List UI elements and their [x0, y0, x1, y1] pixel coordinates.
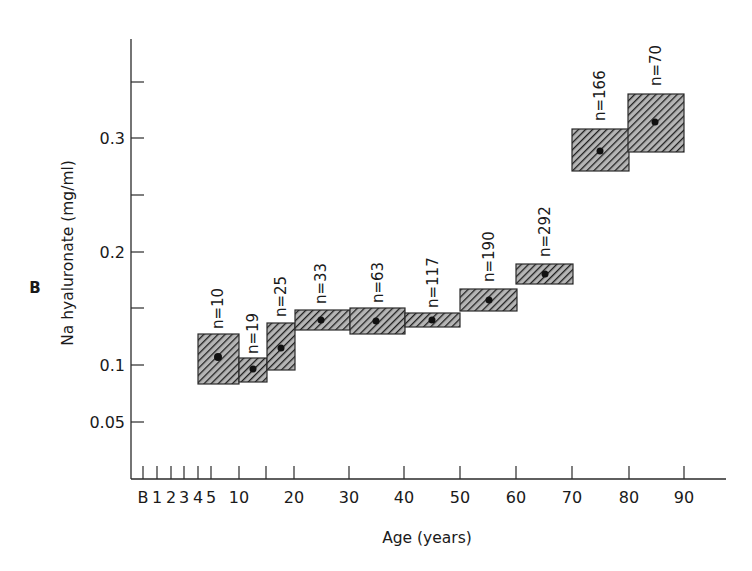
n-label: n=70: [647, 45, 665, 86]
n-label: n=25: [272, 276, 290, 317]
x-tick-label: 80: [619, 488, 639, 507]
mean-dot: [278, 345, 285, 352]
x-ticks: [143, 466, 684, 479]
x-tick-label: 40: [394, 488, 414, 507]
mean-dot: [214, 353, 222, 361]
x-tick-label: 1: [152, 488, 162, 507]
n-label: n=166: [591, 70, 609, 121]
y-tick-labels: 0.3 0.2 0.1 0.05: [89, 129, 125, 432]
x-tick-label: 90: [674, 488, 694, 507]
x-tick-label: 70: [562, 488, 582, 507]
x-tick-label: 10: [229, 488, 249, 507]
n-label: n=292: [536, 206, 554, 257]
y-axis-label: Na hyaluronate (mg/ml): [59, 160, 77, 346]
y-ticks: [131, 82, 144, 422]
n-label: n=117: [424, 257, 442, 308]
mean-dot: [373, 318, 380, 325]
x-tick-label: 30: [339, 488, 359, 507]
y-tick-label: 0.3: [100, 129, 125, 148]
mean-dot: [542, 271, 549, 278]
x-tick-label: 20: [284, 488, 304, 507]
x-tick-label: 2: [166, 488, 176, 507]
y-tick-label: 0.1: [100, 356, 125, 375]
mean-dot: [652, 119, 659, 126]
x-tick-label: 5: [206, 488, 216, 507]
x-tick-label: 50: [450, 488, 470, 507]
x-tick-label: B: [138, 488, 149, 507]
data-boxes: [198, 94, 684, 384]
mean-dot: [486, 297, 493, 304]
panel-label: B: [29, 279, 40, 297]
x-axis-label: Age (years): [382, 529, 472, 547]
x-tick-label: 4: [193, 488, 203, 507]
n-label: n=63: [369, 262, 387, 303]
x-tick-label: 60: [506, 488, 526, 507]
y-tick-label: 0.05: [89, 413, 125, 432]
mean-dot: [318, 317, 325, 324]
chart: B Na hyaluronate (mg/ml) Age (years) 0.3…: [0, 0, 752, 571]
mean-dot: [429, 317, 436, 324]
mean-dot: [250, 366, 257, 373]
y-tick-label: 0.2: [100, 243, 125, 262]
x-tick-label: 3: [179, 488, 189, 507]
n-label: n=19: [244, 313, 262, 354]
x-tick-labels: B 1 2 3 4 5 10 20 30 40 50 60 70 80 90: [138, 488, 695, 507]
mean-dot: [597, 148, 604, 155]
n-label: n=190: [480, 231, 498, 282]
n-label: n=33: [312, 263, 330, 304]
n-labels: n=10 n=19 n=25 n=33 n=63 n=117 n=190 n=2…: [209, 45, 665, 354]
n-label: n=10: [209, 288, 227, 329]
